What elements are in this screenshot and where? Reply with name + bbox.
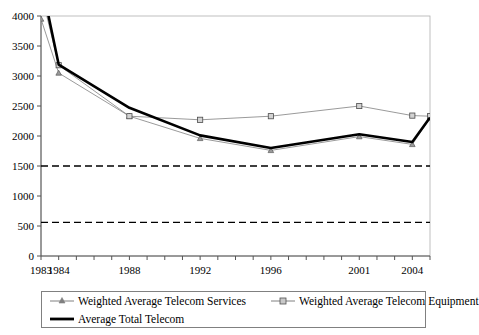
- data-point-square: [357, 103, 362, 108]
- y-tick-label: 0: [29, 250, 35, 262]
- y-tick-label: 3000: [12, 70, 35, 82]
- data-point-square: [127, 114, 132, 119]
- legend-label-equipment: Weighted Average Telecom Equipment: [296, 295, 479, 307]
- legend-row-1: Weighted Average Telecom Services Weight…: [42, 292, 425, 310]
- series-line-1: [41, 0, 430, 120]
- x-tick-label: 1996: [260, 264, 283, 276]
- legend-entry-equipment: Weighted Average Telecom Equipment: [270, 295, 479, 307]
- line-chart: 0500100015002000250030003500400019831984…: [0, 0, 444, 290]
- x-tick-label: 1984: [48, 264, 71, 276]
- x-tick-label: 1988: [118, 264, 141, 276]
- y-tick-label: 3500: [12, 40, 35, 52]
- data-point-triangle: [38, 16, 44, 21]
- data-point-triangle: [56, 70, 62, 75]
- legend-label-services: Weighted Average Telecom Services: [75, 295, 246, 307]
- y-tick-label: 1500: [12, 160, 35, 172]
- legend-entry-total: Average Total Telecom: [49, 313, 184, 325]
- plot-svg: 0500100015002000250030003500400019831984…: [0, 0, 444, 290]
- y-tick-label: 2500: [12, 100, 35, 112]
- y-tick-label: 500: [18, 220, 35, 232]
- line-triangle-icon: [49, 295, 75, 307]
- y-tick-label: 4000: [12, 10, 35, 22]
- legend-label-total: Average Total Telecom: [75, 313, 184, 325]
- y-tick-label: 2000: [12, 130, 35, 142]
- legend-entry-services: Weighted Average Telecom Services: [49, 295, 246, 307]
- thick-line-icon: [49, 313, 75, 325]
- data-point-square: [410, 113, 415, 118]
- series-group: [38, 0, 433, 153]
- series-line-2: [41, 0, 430, 148]
- legend-row-2: Average Total Telecom: [42, 310, 425, 328]
- series-line-0: [41, 19, 430, 150]
- x-tick-label: 2004: [401, 264, 424, 276]
- x-tick-label: 1992: [189, 264, 211, 276]
- x-tick-label: 2001: [348, 264, 370, 276]
- data-point-square: [268, 114, 273, 119]
- y-tick-label: 1000: [12, 190, 35, 202]
- data-point-square: [198, 117, 203, 122]
- line-square-icon: [270, 295, 296, 307]
- chart-legend: Weighted Average Telecom Services Weight…: [41, 291, 426, 328]
